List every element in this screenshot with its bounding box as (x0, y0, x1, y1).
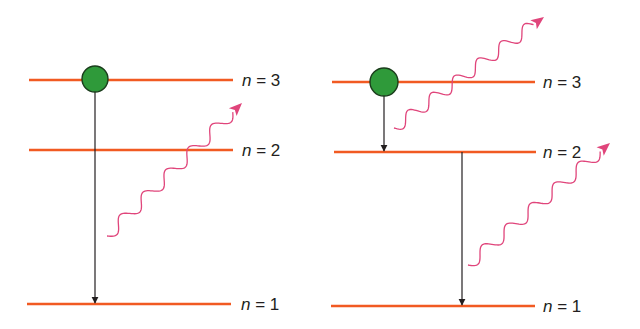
electron (82, 66, 108, 92)
energy-level-diagram: n = 3 n = 2 n = 1 n = 3 n = 2 n = 1 (0, 0, 640, 329)
photon-wave (107, 112, 233, 236)
photon-arrowhead (530, 17, 544, 29)
level-label-n1: n = 1 (543, 297, 581, 316)
level-label-n3: n = 3 (543, 73, 581, 92)
panel-single-transition: n = 3 n = 2 n = 1 (27, 66, 280, 314)
photon-wave (468, 151, 600, 265)
panel-cascade-transition: n = 3 n = 2 n = 1 (331, 17, 610, 316)
photon-wave (394, 23, 534, 129)
level-label-n2: n = 2 (543, 143, 581, 162)
level-label-n2: n = 2 (242, 141, 280, 160)
level-label-n3: n = 3 (242, 71, 280, 90)
photon-arrowhead (597, 143, 610, 156)
electron (370, 68, 398, 96)
photon-arrowhead (229, 103, 242, 116)
level-label-n1: n = 1 (241, 295, 279, 314)
